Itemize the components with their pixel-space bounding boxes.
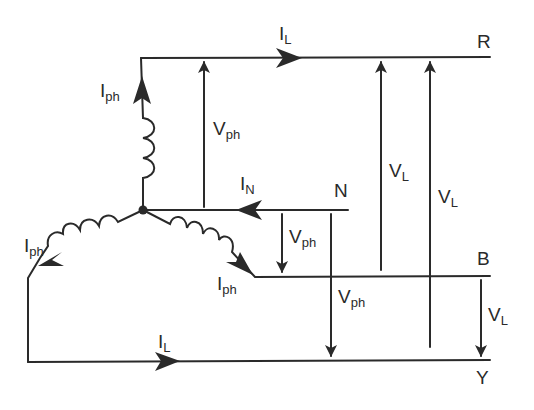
terminal-y-label: Y [476,367,489,388]
star-point-node [139,206,148,215]
il-bottom-label: IL [158,331,171,355]
iph-right-label: Iph [217,273,237,297]
terminal-n-label: N [334,180,348,201]
terminal-r-label: R [477,31,491,52]
iph-left-label: Iph [24,235,44,259]
vl-ry-label: VL [438,186,458,210]
in-label: IN [240,173,255,197]
phase-y-winding [28,210,143,362]
il-top-label: IL [279,23,292,47]
line-r-wire [141,57,490,58]
terminal-b-label: B [477,248,490,269]
vl-by-label: VL [488,304,508,328]
vl-rb-label: VL [389,160,409,184]
star-connection-diagram: IL R Iph Vph IN N VL VL Vph Iph B Iph Vp… [0,0,534,410]
vph-rn-label: Vph [213,118,240,142]
phase-b-winding [143,210,490,277]
line-y-wire [28,360,490,362]
vph-ny-label: Vph [338,286,365,310]
iph-top-label: Iph [100,80,120,104]
iph-right-arrowhead [226,252,253,275]
vph-nb-label: Vph [289,226,316,250]
